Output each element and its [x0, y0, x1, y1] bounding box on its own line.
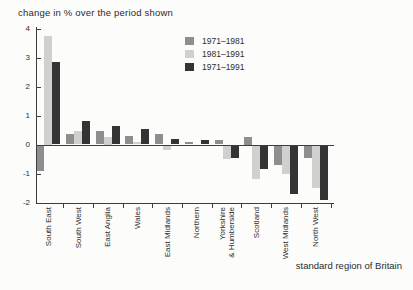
x-tick-label-0: South East: [44, 207, 53, 263]
chart-title: change in % over the period shown: [18, 7, 173, 18]
x-tick: [271, 204, 272, 208]
x-tick-label-3: Wales: [133, 207, 142, 263]
bar-1971-1981-8: [274, 145, 282, 165]
legend-swatch: [185, 37, 194, 45]
zero-line: [37, 145, 334, 146]
bar-1971-1981-1: [66, 134, 74, 144]
legend-swatch: [185, 50, 194, 58]
bar-1971-1991-6: [231, 145, 239, 158]
x-tick-label-9: North West: [311, 207, 320, 263]
y-tick-label: 3: [10, 53, 30, 62]
x-tick-label-6: Yorkshire & Humberside: [218, 207, 236, 263]
x-tick: [123, 204, 124, 208]
bar-1981-1991-2: [104, 137, 112, 144]
bar-1981-1991-9: [312, 145, 320, 189]
bar-1981-1991-6: [223, 145, 231, 160]
bar-1981-1991-1: [74, 131, 82, 144]
x-tick: [301, 204, 302, 208]
y-tick: [37, 58, 41, 59]
y-tick-label: -1: [10, 169, 30, 178]
bar-1971-1991-1: [82, 121, 90, 144]
x-tick: [152, 204, 153, 208]
y-tick-label: 0: [10, 140, 30, 149]
x-tick-label-7: Scotland: [252, 207, 261, 263]
bar-1981-1991-8: [282, 145, 290, 174]
bar-1971-1981-9: [304, 145, 312, 158]
y-tick: [37, 203, 41, 204]
legend-item: 1981–1991: [185, 50, 255, 59]
legend-swatch: [185, 63, 194, 71]
y-tick: [37, 116, 41, 117]
legend-item: 1971–1981: [185, 37, 255, 46]
x-tick-label-5: Northern: [192, 207, 201, 263]
y-tick-label: 1: [10, 111, 30, 120]
bar-1971-1991-2: [112, 126, 120, 145]
x-tick: [63, 204, 64, 208]
bar-1971-1981-7: [244, 137, 252, 144]
legend-label: 1981–1991: [202, 49, 245, 59]
y-tick-label: 4: [10, 24, 30, 33]
x-tick-label-2: East Anglia: [103, 207, 112, 263]
x-axis-title: standard region of Britain: [296, 260, 402, 271]
x-tick-label-1: South West: [74, 207, 83, 263]
bar-1971-1981-0: [36, 145, 44, 171]
legend-label: 1971–1981: [202, 36, 245, 46]
y-tick: [37, 145, 41, 146]
y-tick-label: -2: [10, 198, 30, 207]
bar-1971-1991-3: [141, 129, 149, 145]
legend-item: 1971–1991: [185, 63, 255, 72]
bar-1981-1991-7: [252, 145, 260, 180]
bar-1971-1981-3: [125, 136, 133, 145]
legend-label: 1971–1991: [202, 62, 245, 72]
x-axis-line: [36, 203, 334, 204]
x-tick-label-4: East Midlands: [163, 207, 172, 263]
chart-canvas: change in % over the period shown 43210-…: [0, 0, 413, 290]
bar-1971-1991-9: [320, 145, 328, 200]
x-tick: [212, 204, 213, 208]
y-tick: [37, 174, 41, 175]
bar-1971-1991-7: [260, 145, 268, 170]
bar-1971-1981-4: [155, 134, 163, 144]
bar-1971-1991-0: [52, 62, 60, 145]
x-tick: [331, 204, 332, 208]
bar-1981-1991-0: [44, 36, 52, 145]
x-tick: [241, 204, 242, 208]
y-tick: [37, 87, 41, 88]
y-tick: [37, 29, 41, 30]
bar-1971-1981-2: [96, 131, 104, 144]
x-tick-label-8: West Midlands: [281, 207, 290, 263]
x-tick: [182, 204, 183, 208]
y-tick-label: 2: [10, 82, 30, 91]
x-tick: [93, 204, 94, 208]
bar-1971-1991-8: [290, 145, 298, 194]
